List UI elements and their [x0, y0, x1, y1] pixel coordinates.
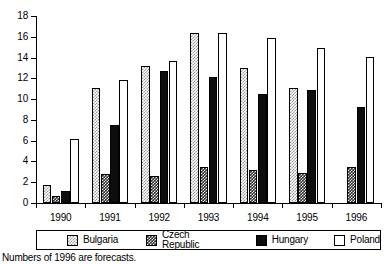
- bar-group: [289, 16, 325, 203]
- y-axis-tick-label: 10: [4, 94, 28, 104]
- x-axis-tick-label: 1995: [284, 212, 330, 223]
- x-axis-tick-label: 1993: [186, 212, 232, 223]
- bar-poland-1990: [70, 139, 79, 203]
- bar-czech-republic-1990: [52, 196, 61, 203]
- x-axis-tick-label: 1994: [235, 212, 281, 223]
- y-axis-tick-label: 18: [4, 11, 28, 21]
- bar-czech-republic-1993: [200, 167, 209, 203]
- legend-label: Hungary: [272, 235, 308, 245]
- legend-item-poland: Poland: [334, 235, 380, 246]
- y-axis-tick-label: 0: [4, 198, 28, 208]
- bar-czech-republic-1991: [101, 174, 110, 203]
- plot-area: [36, 16, 381, 203]
- legend-label: Poland: [350, 235, 380, 245]
- bar-bulgaria-1993: [190, 33, 199, 203]
- bar-czech-republic-1995: [298, 173, 307, 203]
- chart-legend: BulgariaCzech RepublicHungaryPoland: [36, 230, 381, 250]
- bar-hungary-1994: [258, 94, 267, 203]
- legend-label: Bulgaria: [83, 235, 118, 245]
- y-axis-tick-label: 16: [4, 32, 28, 42]
- x-axis-tick: [85, 203, 86, 208]
- y-axis-tick-label: 6: [4, 136, 28, 146]
- bar-group: [141, 16, 177, 203]
- legend-swatch-icon: [67, 235, 78, 246]
- bar-group: [190, 16, 226, 203]
- bar-bulgaria-1995: [289, 88, 298, 203]
- bar-czech-republic-1994: [249, 170, 258, 203]
- legend-swatch-icon: [146, 235, 157, 246]
- bar-poland-1996: [366, 57, 375, 203]
- bar-hungary-1995: [307, 90, 316, 203]
- x-axis-tick-label: 1992: [136, 212, 182, 223]
- x-axis-tick-label: 1991: [87, 212, 133, 223]
- x-axis-tick-label: 1996: [333, 212, 379, 223]
- y-axis-tick-label: 8: [4, 115, 28, 125]
- x-axis-line: [36, 203, 381, 204]
- unemployment-bar-chart: 024681012141618 199019911992199319941995…: [0, 0, 387, 264]
- x-axis-tick-label: 1990: [38, 212, 84, 223]
- bar-hungary-1991: [110, 125, 119, 203]
- x-axis-tick: [332, 203, 333, 208]
- bar-bulgaria-1991: [92, 88, 101, 203]
- bar-group: [92, 16, 128, 203]
- bar-bulgaria-1990: [43, 185, 52, 203]
- y-axis-tick-label: 12: [4, 73, 28, 83]
- legend-label: Czech Republic: [162, 230, 228, 250]
- bar-czech-republic-1996: [347, 167, 356, 203]
- bar-bulgaria-1994: [240, 68, 249, 203]
- y-axis-tick-label: 4: [4, 156, 28, 166]
- bar-hungary-1990: [61, 191, 70, 203]
- legend-item-czech-republic: Czech Republic: [146, 230, 228, 250]
- bar-poland-1994: [267, 38, 276, 203]
- bar-bulgaria-1992: [141, 66, 150, 203]
- bar-group: [240, 16, 276, 203]
- bar-hungary-1993: [209, 77, 218, 203]
- bar-poland-1991: [119, 80, 128, 203]
- chart-footnote: Numbers of 1996 are forecasts.: [2, 252, 136, 263]
- bar-poland-1995: [317, 48, 326, 203]
- x-axis-tick: [184, 203, 185, 208]
- legend-swatch-icon: [334, 235, 345, 246]
- bar-poland-1992: [169, 61, 178, 203]
- legend-item-hungary: Hungary: [256, 235, 308, 246]
- x-axis-tick: [381, 203, 382, 208]
- bar-group: [43, 16, 79, 203]
- bar-poland-1993: [218, 33, 227, 203]
- x-axis-tick: [36, 203, 37, 208]
- bar-czech-republic-1992: [150, 176, 159, 203]
- y-axis-tick-label: 2: [4, 177, 28, 187]
- legend-item-bulgaria: Bulgaria: [67, 235, 118, 246]
- x-axis-tick: [282, 203, 283, 208]
- y-axis-tick-label: 14: [4, 53, 28, 63]
- bar-group: [338, 16, 374, 203]
- bar-hungary-1996: [357, 107, 366, 203]
- legend-swatch-icon: [256, 235, 267, 246]
- x-axis-tick: [233, 203, 234, 208]
- x-axis-tick: [135, 203, 136, 208]
- bar-hungary-1992: [160, 71, 169, 203]
